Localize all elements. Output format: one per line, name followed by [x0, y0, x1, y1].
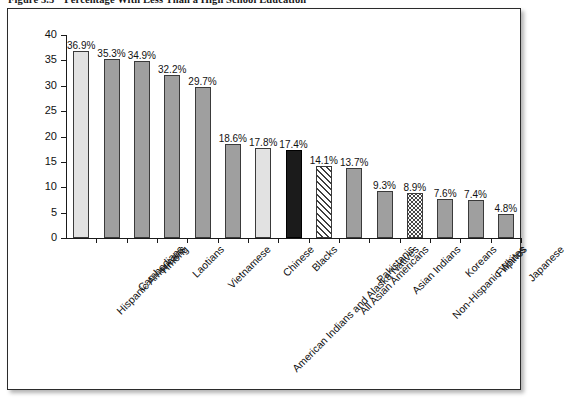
figure-caption-title: Percentage With Less Than a High School …: [64, 0, 306, 5]
bar: 17.4%: [286, 150, 302, 238]
y-axis-tick-label: 10: [33, 180, 57, 193]
y-axis-tick: 0: [61, 238, 66, 239]
bar: 29.7%: [195, 87, 211, 238]
x-axis-tick: [430, 238, 431, 243]
y-axis-tick-label: 35: [33, 53, 57, 66]
y-axis-tick-label: 20: [33, 130, 57, 143]
x-axis-tick: [187, 238, 188, 243]
bar-value-label: 34.9%: [128, 50, 156, 61]
bar-value-label: 29.7%: [188, 76, 216, 87]
x-axis-tick: [248, 238, 249, 243]
x-axis-tick: [157, 238, 158, 243]
x-axis-tick: [127, 238, 128, 243]
y-axis-tick-label: 15: [33, 155, 57, 168]
bar: 18.6%: [225, 144, 241, 238]
bar-value-label: 7.4%: [464, 189, 487, 200]
x-axis-tick: [278, 238, 279, 243]
y-axis-tick-label: 5: [33, 206, 57, 219]
y-axis-tick-label: 25: [33, 104, 57, 117]
bar-value-label: 14.1%: [310, 155, 338, 166]
bar-value-label: 7.6%: [434, 188, 457, 199]
figure-panel: 0510152025303540 36.9%35.3%34.9%32.2%29.…: [7, 8, 521, 390]
x-axis-category-label: Chinese: [280, 243, 316, 279]
x-axis-tick: [339, 238, 340, 243]
bar: 4.8%: [498, 214, 514, 238]
x-axis-tick: [521, 238, 522, 243]
bar-value-label: 32.2%: [158, 64, 186, 75]
bar: 34.9%: [134, 61, 150, 238]
bar: 32.2%: [164, 75, 180, 238]
bar: 8.9%: [407, 193, 423, 238]
bar: 17.8%: [255, 148, 271, 238]
x-axis-tick: [369, 238, 370, 243]
bar: 36.9%: [73, 51, 89, 238]
bar-value-label: 18.6%: [219, 133, 247, 144]
y-axis-tick-label: 40: [33, 28, 57, 41]
bar-value-label: 35.3%: [97, 48, 125, 59]
x-axis-tick: [96, 238, 97, 243]
figure-caption: Figure 3.5Percentage With Less Than a Hi…: [8, 0, 306, 8]
bar-value-label: 9.3%: [373, 180, 396, 191]
bar-value-label: 13.7%: [340, 157, 368, 168]
bar: 13.7%: [346, 168, 362, 238]
bar-value-label: 4.8%: [494, 203, 517, 214]
y-axis-tick-label: 30: [33, 79, 57, 92]
bar: 7.4%: [468, 200, 484, 238]
bar-value-label: 8.9%: [403, 182, 426, 193]
x-axis-line: [66, 238, 521, 239]
x-axis-tick: [309, 238, 310, 243]
x-axis-category-label: Vietnamese: [225, 243, 273, 291]
bar-value-label: 17.4%: [279, 139, 307, 150]
bar: 35.3%: [104, 59, 120, 238]
bar-value-label: 17.8%: [249, 137, 277, 148]
bar: 7.6%: [437, 199, 453, 238]
bar: 14.1%: [316, 166, 332, 238]
plot-area: 36.9%35.3%34.9%32.2%29.7%18.6%17.8%17.4%…: [66, 35, 521, 238]
y-axis-tick-label: 0: [33, 231, 57, 244]
x-axis-tick: [491, 238, 492, 243]
bar: 9.3%: [377, 191, 393, 238]
bar-value-label: 36.9%: [67, 40, 95, 51]
x-axis-category-label: Laotians: [190, 243, 227, 280]
x-axis-category-label: Japanese: [525, 243, 566, 284]
x-axis-tick: [460, 238, 461, 243]
x-axis-category-label: Filipinos: [493, 243, 529, 279]
x-axis-tick: [400, 238, 401, 243]
figure-caption-number: Figure 3.5: [8, 0, 54, 5]
